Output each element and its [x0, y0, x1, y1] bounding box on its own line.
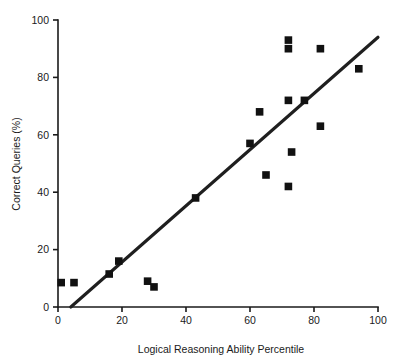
- data-point: [57, 279, 65, 287]
- data-point: [317, 122, 325, 130]
- x-tick-label: 0: [55, 314, 61, 326]
- y-axis-title: Correct Queries (%): [10, 117, 22, 210]
- y-tick-label: 60: [37, 129, 49, 141]
- data-point: [301, 97, 309, 105]
- data-point: [288, 148, 296, 156]
- plot-canvas: 020406080100 020406080100 Logical Reason…: [0, 0, 402, 363]
- data-point: [192, 194, 200, 202]
- y-tick-label: 40: [37, 186, 49, 198]
- x-tick-label: 40: [180, 314, 192, 326]
- data-point: [256, 108, 264, 116]
- x-axis-group: 020406080100: [55, 307, 387, 326]
- x-tick-label: 100: [369, 314, 387, 326]
- x-tick-label: 80: [308, 314, 320, 326]
- data-point: [285, 183, 293, 191]
- data-point: [285, 36, 293, 44]
- data-point: [115, 257, 123, 265]
- y-axis-group: 020406080100: [31, 14, 58, 313]
- regression-trendline: [71, 37, 378, 307]
- data-point: [246, 140, 254, 148]
- x-tick-label: 20: [116, 314, 128, 326]
- data-point: [355, 65, 363, 73]
- x-tick-labels: 020406080100: [55, 314, 387, 326]
- data-point: [150, 283, 158, 291]
- x-tick-label: 60: [244, 314, 256, 326]
- y-tick-label: 20: [37, 243, 49, 255]
- x-axis-title: Logical Reasoning Ability Percentile: [138, 343, 305, 355]
- y-tick-label: 80: [37, 71, 49, 83]
- data-point: [262, 171, 270, 179]
- data-point: [105, 270, 113, 278]
- data-point: [317, 45, 325, 53]
- trendline-segment: [71, 37, 378, 307]
- data-point: [70, 279, 78, 287]
- y-tick-label: 100: [31, 14, 49, 26]
- data-point-markers: [57, 36, 362, 290]
- data-point: [285, 45, 293, 53]
- y-tick-labels: 020406080100: [31, 14, 49, 313]
- data-point: [285, 97, 293, 105]
- scatter-plot-figure: 020406080100 020406080100 Logical Reason…: [0, 0, 402, 363]
- y-tick-label: 0: [43, 301, 49, 313]
